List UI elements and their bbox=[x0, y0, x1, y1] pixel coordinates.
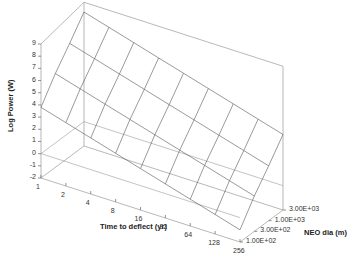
surface-line bbox=[55, 43, 69, 73]
surface-line bbox=[95, 27, 109, 58]
x-tick-label: 128 bbox=[208, 239, 220, 246]
surface-line bbox=[254, 166, 268, 196]
y-tick-label: 1.00E+03 bbox=[275, 216, 305, 223]
surface-line bbox=[208, 89, 233, 104]
zero-plane-line bbox=[41, 122, 84, 154]
surface-line bbox=[105, 74, 119, 104]
surface-line bbox=[41, 74, 55, 108]
surface-line bbox=[119, 43, 133, 74]
surface-line bbox=[41, 107, 66, 122]
z-tick-label: -2 bbox=[27, 173, 36, 180]
z-tick-label: 8 bbox=[27, 51, 36, 58]
x-tick-label: 64 bbox=[184, 231, 192, 238]
surface-line bbox=[116, 119, 130, 153]
surface-line bbox=[244, 151, 269, 166]
surface-line bbox=[184, 73, 209, 88]
z-tick-label: 1 bbox=[27, 136, 36, 143]
surface-line bbox=[134, 43, 159, 58]
surface-line bbox=[95, 59, 120, 74]
z-tick-label: -1 bbox=[27, 161, 36, 168]
surface-line bbox=[70, 43, 95, 58]
surface-line bbox=[240, 196, 254, 230]
surface-line bbox=[190, 165, 204, 199]
y-axis-title: NEO dia (m) bbox=[304, 228, 347, 237]
side-wall-top bbox=[41, 2, 84, 44]
surface-line bbox=[91, 138, 116, 153]
x-tick-label: 4 bbox=[86, 199, 90, 206]
surface-line bbox=[180, 150, 205, 165]
surface-line bbox=[169, 105, 194, 120]
x-tick-label: 256 bbox=[233, 247, 245, 254]
surface-line bbox=[105, 104, 130, 119]
surface-line bbox=[159, 58, 184, 73]
surface-line bbox=[194, 89, 208, 120]
floor-edge bbox=[84, 146, 283, 210]
surface-line bbox=[165, 184, 190, 199]
z-axis-title: Log Power (W) bbox=[6, 80, 15, 133]
surface-line bbox=[165, 150, 179, 184]
y-tick-label: 3.00E+02 bbox=[260, 226, 290, 233]
surface-line bbox=[119, 74, 144, 89]
surface-line bbox=[116, 153, 141, 168]
surface-line bbox=[144, 89, 169, 104]
surface-line bbox=[215, 215, 240, 230]
floor-edge bbox=[41, 146, 84, 178]
surface-line bbox=[84, 12, 109, 27]
x-tick-label: 1 bbox=[36, 183, 40, 190]
z-tick-label: 7 bbox=[27, 63, 36, 70]
z-tick-label: 5 bbox=[27, 88, 36, 95]
x-tick-label: 8 bbox=[111, 207, 115, 214]
z-tick-label: 3 bbox=[27, 112, 36, 119]
surface-line bbox=[55, 74, 80, 89]
z-tick-label: 0 bbox=[27, 149, 36, 156]
surface-line bbox=[169, 73, 183, 104]
surface-line bbox=[233, 104, 258, 119]
z-tick-label: 9 bbox=[27, 39, 36, 46]
surface-line bbox=[194, 120, 219, 135]
y-tick-label: 3.00E+03 bbox=[289, 205, 319, 212]
surface-chart bbox=[0, 0, 360, 257]
surface-line bbox=[66, 123, 91, 138]
surface-line bbox=[190, 199, 215, 214]
x-tick-label: 2 bbox=[61, 191, 65, 198]
surface-line bbox=[109, 27, 134, 42]
surface-line bbox=[91, 104, 105, 138]
z-tick-label: 2 bbox=[27, 124, 36, 131]
surface-line bbox=[155, 105, 169, 135]
surface-line bbox=[141, 135, 155, 169]
surface-line bbox=[80, 59, 94, 89]
x-axis-title: Time to deflect (yr) bbox=[100, 222, 167, 231]
surface-line bbox=[215, 181, 229, 215]
surface-line bbox=[144, 58, 158, 89]
surface-line bbox=[258, 119, 283, 134]
z-tick-label: 6 bbox=[27, 76, 36, 83]
surface-line bbox=[269, 134, 283, 165]
zero-plane-line bbox=[84, 122, 283, 186]
surface-line bbox=[205, 165, 230, 180]
surface-line bbox=[244, 119, 258, 150]
surface-line bbox=[219, 135, 244, 150]
x-tick-label: 16 bbox=[135, 215, 143, 222]
surface-line bbox=[130, 89, 144, 119]
surface-line bbox=[180, 120, 194, 150]
surface-line bbox=[155, 135, 180, 150]
surface-line bbox=[66, 89, 80, 123]
surface-line bbox=[70, 12, 84, 43]
surface-line bbox=[219, 104, 233, 135]
surface-line bbox=[205, 135, 219, 165]
z-tick-label: 4 bbox=[27, 100, 36, 107]
y-tick-label: 1.00E+02 bbox=[246, 237, 276, 244]
surface-line bbox=[229, 151, 243, 181]
back-wall-top bbox=[84, 2, 283, 66]
surface-line bbox=[130, 119, 155, 134]
